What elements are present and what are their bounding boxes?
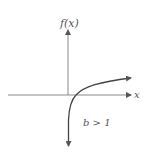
log-curve-lower	[69, 95, 77, 146]
x-axis-label: x	[134, 89, 140, 100]
log-curve-upper	[76, 78, 131, 95]
condition-label: b > 1	[83, 117, 111, 128]
y-axis-label: f(x)	[59, 17, 79, 30]
log-graph: f(x) x b > 1	[0, 0, 151, 160]
